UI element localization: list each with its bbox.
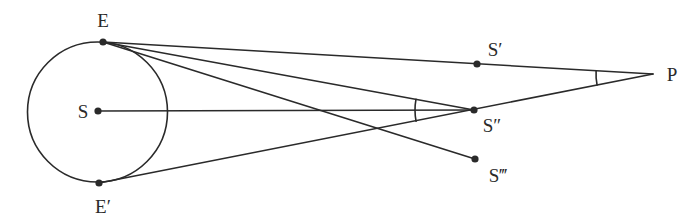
point-E-dot bbox=[99, 38, 106, 45]
label-P: P bbox=[667, 64, 678, 85]
point-Sp-dot bbox=[473, 60, 480, 67]
label-Spp: S″ bbox=[483, 115, 501, 136]
label-Ep: E′ bbox=[95, 196, 111, 217]
point-Spp-dot bbox=[470, 106, 477, 113]
point-Sppp-dot bbox=[471, 155, 478, 162]
line-S-S2 bbox=[98, 110, 474, 111]
parallax-diagram: EE′SS′S″S‴P bbox=[0, 0, 700, 218]
point-Ep-dot bbox=[95, 179, 102, 186]
point-S-dot bbox=[94, 107, 101, 114]
angle-at-P-arc bbox=[596, 71, 597, 85]
label-S: S bbox=[78, 101, 89, 122]
line-E-P bbox=[103, 42, 653, 74]
label-Sppp: S‴ bbox=[489, 165, 508, 186]
label-Sp: S′ bbox=[488, 39, 503, 60]
line-Ep-P bbox=[99, 74, 653, 183]
label-E: E bbox=[97, 10, 109, 31]
lines-group bbox=[98, 42, 653, 183]
angle-arcs-group bbox=[415, 71, 597, 122]
